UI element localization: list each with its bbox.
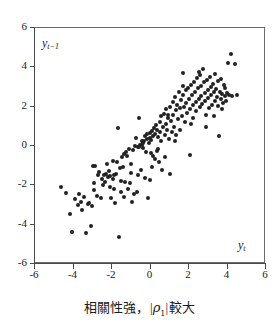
x-axis-tick-label: 2 bbox=[177, 268, 199, 281]
y-axis-tick bbox=[30, 106, 35, 107]
scatter-point bbox=[123, 180, 127, 184]
scatter-point bbox=[201, 67, 205, 71]
scatter-point bbox=[90, 204, 94, 208]
scatter-point bbox=[209, 93, 213, 97]
rho-magnitude-group: |ρ1| bbox=[149, 300, 169, 318]
scatter-point bbox=[168, 172, 172, 176]
scatter-point bbox=[213, 72, 217, 76]
scatter-point bbox=[179, 98, 183, 102]
scatter-point bbox=[77, 192, 81, 196]
scatter-point bbox=[80, 208, 84, 212]
scatter-point bbox=[188, 153, 192, 157]
scatter-point bbox=[130, 200, 134, 204]
scatter-point bbox=[178, 106, 182, 110]
scatter-point bbox=[129, 162, 133, 166]
scatter-point bbox=[122, 195, 126, 199]
scatter-point bbox=[189, 122, 193, 126]
scatter-point bbox=[192, 80, 196, 84]
scatter-point bbox=[114, 172, 118, 176]
scatter-point bbox=[164, 122, 168, 126]
scatter-point bbox=[219, 77, 223, 81]
scatter-point bbox=[182, 105, 186, 109]
scatter-point bbox=[99, 196, 103, 200]
scatter-point bbox=[129, 171, 133, 175]
scatter-point bbox=[193, 90, 197, 94]
scatter-point bbox=[226, 61, 230, 65]
scatter-point bbox=[187, 97, 191, 101]
y-axis-tick-label: 0 bbox=[6, 138, 27, 151]
y-axis-tick bbox=[30, 224, 35, 225]
scatter-point bbox=[217, 134, 221, 138]
scatter-point bbox=[149, 138, 153, 142]
y-axis-tick bbox=[30, 66, 35, 67]
y-axis-tick bbox=[30, 263, 35, 264]
scatter-point bbox=[158, 130, 162, 134]
scatter-point bbox=[131, 148, 135, 152]
scatter-point bbox=[235, 93, 239, 97]
x-axis-tick-label: 6 bbox=[254, 268, 276, 281]
scatter-point bbox=[160, 168, 164, 172]
scatter-point bbox=[150, 165, 154, 169]
scatter-point bbox=[107, 169, 111, 173]
scatter-point bbox=[128, 181, 132, 185]
scatter-point bbox=[163, 155, 167, 159]
scatter-point bbox=[181, 93, 185, 97]
scatter-point bbox=[143, 176, 147, 180]
scatter-point bbox=[119, 190, 123, 194]
y-axis-tick-label: -2 bbox=[6, 177, 27, 190]
scatter-point bbox=[156, 147, 160, 151]
scatter-point bbox=[174, 108, 178, 112]
x-axis-label: yt bbox=[238, 238, 246, 253]
scatter-point bbox=[97, 170, 101, 174]
scatter-point bbox=[111, 177, 115, 181]
scatter-point bbox=[223, 86, 227, 90]
scatter-point bbox=[216, 104, 220, 108]
scatter-point bbox=[194, 109, 198, 113]
scatter-point bbox=[158, 120, 162, 124]
scatter-point bbox=[59, 185, 63, 189]
scatter-point bbox=[144, 150, 148, 154]
y-axis-tick-label: 6 bbox=[6, 20, 27, 33]
scatter-point bbox=[73, 197, 77, 201]
scatter-point bbox=[92, 188, 96, 192]
scatter-point bbox=[89, 224, 93, 228]
scatter-point bbox=[82, 195, 86, 199]
scatter-point bbox=[166, 113, 170, 117]
scatter-point bbox=[125, 154, 129, 158]
scatter-point bbox=[177, 90, 181, 94]
scatter-point bbox=[203, 91, 207, 95]
scatter-point bbox=[174, 133, 178, 137]
x-axis-label-sub: t bbox=[243, 244, 245, 253]
figure-caption: 相關性強，|ρ1|較大 bbox=[0, 297, 279, 318]
scatter-point bbox=[146, 196, 150, 200]
scatter-point bbox=[159, 139, 163, 143]
scatter-point bbox=[183, 120, 187, 124]
scatter-point bbox=[211, 82, 215, 86]
scatter-point bbox=[64, 191, 68, 195]
scatter-point bbox=[137, 116, 141, 120]
scatter-point bbox=[199, 84, 203, 88]
scatter-points-layer bbox=[34, 27, 265, 263]
scatter-point bbox=[213, 99, 217, 103]
scatter-point bbox=[233, 62, 237, 66]
scatter-point bbox=[173, 95, 177, 99]
scatter-point bbox=[101, 183, 105, 187]
figure-container: -6-4-202466420-2-4-6 yt−1 yt 相關性強，|ρ1|較大 bbox=[0, 0, 279, 332]
scatter-point bbox=[121, 165, 125, 169]
scatter-point bbox=[134, 136, 138, 140]
scatter-point bbox=[109, 196, 113, 200]
scatter-point bbox=[210, 103, 214, 107]
scatter-point bbox=[181, 71, 185, 75]
caption-suffix: 較大 bbox=[169, 300, 195, 315]
scatter-point bbox=[171, 113, 175, 117]
scatter-point bbox=[163, 133, 167, 137]
scatter-point bbox=[184, 101, 188, 105]
scatter-point bbox=[191, 103, 195, 107]
scatter-point bbox=[208, 75, 212, 79]
y-axis-label-sub: t−1 bbox=[47, 42, 59, 51]
scatter-point bbox=[230, 94, 234, 98]
scatter-point bbox=[206, 88, 210, 92]
scatter-point bbox=[165, 128, 169, 132]
scatter-point bbox=[224, 99, 228, 103]
scatter-point bbox=[173, 139, 177, 143]
